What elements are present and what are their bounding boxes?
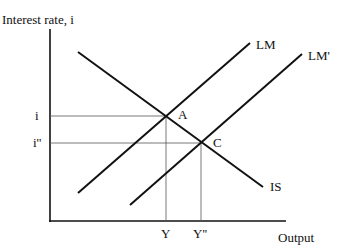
tick-y-label: Y [161,227,170,241]
is-lm-diagram [0,0,339,251]
is-label: IS [270,180,282,194]
lm-prime-label: LM' [308,49,330,63]
tick-y-double-prime-label: Y'' [193,227,207,241]
point-c-label: C [213,136,222,150]
lm-label: LM [256,38,276,52]
x-axis-label: Output [278,231,314,245]
tick-i-label: i [35,109,39,123]
point-a-label: A [178,108,187,122]
is-curve [78,52,263,187]
lm-curve [78,43,250,193]
tick-i-double-prime-label: i'' [33,136,41,150]
y-axis-label: Interest rate, i [2,13,74,27]
